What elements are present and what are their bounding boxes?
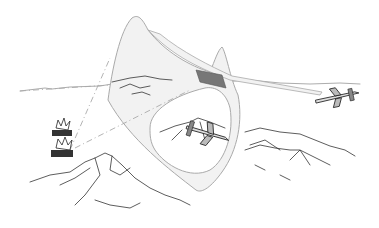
ridge-right	[245, 128, 355, 165]
tank-explosion-2	[51, 137, 73, 157]
illustration	[0, 0, 379, 228]
tank-explosion-1	[52, 118, 72, 136]
right-foreground-ridge	[245, 145, 330, 180]
aircraft-far	[314, 83, 361, 111]
scene	[0, 0, 379, 228]
line-of-sight-1	[70, 58, 110, 150]
